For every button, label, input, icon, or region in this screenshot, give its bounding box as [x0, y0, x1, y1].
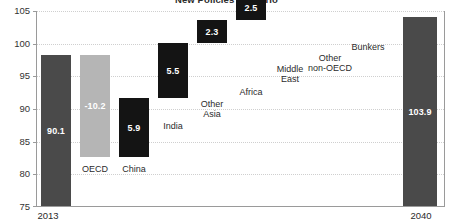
bar-value-2013: 90.1	[41, 126, 71, 136]
cat-label-china: China	[114, 164, 154, 174]
y-tick-label-105: 105	[0, 6, 30, 16]
y-tick-80	[33, 174, 37, 175]
x-axis-year-2040: 2040	[399, 210, 443, 221]
y-tick-75	[33, 206, 37, 207]
y-tick-95	[33, 76, 37, 77]
bar-oecd[interactable]: -10.2	[80, 55, 110, 157]
bar-value-2040: 103.9	[403, 107, 437, 117]
cat-label-oecd: OECD	[75, 164, 115, 174]
y-tick-90	[33, 109, 37, 110]
bar-2013[interactable]: 90.1	[41, 55, 71, 206]
bar-value-india: 5.5	[158, 66, 188, 76]
cat-label-other-asia: Other Asia	[189, 99, 235, 119]
bar-value-other-asia: 2.3	[197, 27, 227, 37]
waterfall-chart: New Policies Scenario 75 80 85 90 95 100…	[0, 0, 453, 223]
bar-china[interactable]: 5.9	[119, 98, 149, 157]
plot-area: 90.1 -10.2 5.9 5.5 2.3 2.5 3.7 1.6	[36, 11, 445, 207]
bar-africa[interactable]: 2.5	[236, 0, 266, 20]
bar-india[interactable]: 5.5	[158, 43, 188, 98]
bar-value-africa: 2.5	[236, 3, 266, 13]
y-tick-label-80: 80	[0, 169, 30, 179]
bar-value-china: 5.9	[119, 123, 149, 133]
x-axis-year-2013: 2013	[26, 210, 70, 221]
y-tick-label-90: 90	[0, 104, 30, 114]
cat-label-africa: Africa	[231, 87, 271, 97]
cat-label-bunkers: Bunkers	[346, 42, 390, 52]
y-tick-label-85: 85	[0, 137, 30, 147]
cat-label-india: India	[153, 121, 193, 131]
y-tick-105	[33, 11, 37, 12]
bar-2040[interactable]: 103.9	[403, 17, 437, 206]
y-axis-labels: 75 80 85 90 95 100 105	[0, 11, 33, 207]
y-tick-85	[33, 142, 37, 143]
bar-value-oecd: -10.2	[80, 101, 110, 111]
bar-other-asia[interactable]: 2.3	[197, 20, 227, 43]
y-tick-label-100: 100	[0, 39, 30, 49]
cat-label-other-non-oecd: Other non-OECD	[303, 53, 357, 73]
y-tick-100	[33, 44, 37, 45]
y-tick-label-95: 95	[0, 71, 30, 81]
gridline-80	[37, 174, 444, 175]
chart-title: New Policies Scenario	[0, 0, 453, 5]
